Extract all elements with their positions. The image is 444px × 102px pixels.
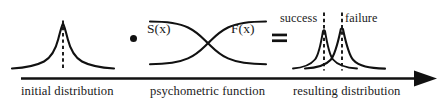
- success-peak-label: success: [280, 12, 317, 24]
- caption-initial-distribution: initial distribution: [21, 85, 114, 98]
- success-function-label: S(x): [147, 22, 171, 36]
- failure-peak-label: failure: [345, 12, 378, 24]
- caption-psychometric-function: psychometric function: [150, 85, 265, 98]
- failure-posterior-curve: [305, 28, 385, 68]
- panel-initial-distribution: [12, 21, 114, 71]
- caption-resulting-distribution: resulting distribution: [293, 85, 401, 98]
- multiplication-dot-icon: [130, 35, 137, 42]
- bayesian-update-figure: S(x) F(x) success failure initial distri…: [0, 0, 444, 102]
- failure-function-label: F(x): [231, 22, 255, 36]
- arrowhead-icon: [414, 71, 437, 87]
- equals-sign-icon: [272, 34, 287, 43]
